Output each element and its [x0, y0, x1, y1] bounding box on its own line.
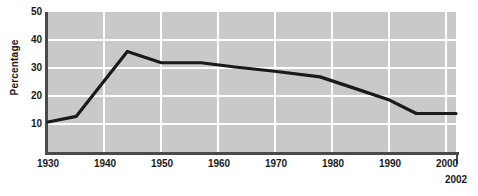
y-tick-label-40: 40 [0, 35, 42, 45]
y-axis-line [45, 12, 48, 155]
gridline-vertical [274, 12, 276, 153]
gridline-horizontal [48, 95, 456, 97]
gridline-vertical [160, 12, 162, 153]
gridline-vertical [331, 12, 333, 153]
x-tick-label-1990: 1990 [367, 158, 413, 169]
plot-area [48, 12, 456, 153]
y-tick-label-30: 30 [0, 63, 42, 73]
x-axis-end-label: 2002 [434, 174, 478, 185]
y-tick-label-10: 10 [0, 119, 42, 129]
gridline-horizontal [48, 67, 456, 69]
x-tick-label-1930: 1930 [25, 158, 71, 169]
gridline-vertical [217, 12, 219, 153]
gridline-horizontal [48, 123, 456, 125]
x-axis-line [45, 152, 459, 155]
x-tick-label-1980: 1980 [310, 158, 356, 169]
y-tick-label-20: 20 [0, 91, 42, 101]
x-tick-label-1950: 1950 [139, 158, 185, 169]
x-tick-label-2000: 2000 [424, 158, 470, 169]
y-tick-label-50: 50 [0, 7, 42, 17]
y-axis-title: Percentage [9, 32, 20, 104]
gridline-vertical [103, 12, 105, 153]
x-tick-label-1960: 1960 [196, 158, 242, 169]
gridline-vertical [388, 12, 390, 153]
x-tick-label-1970: 1970 [253, 158, 299, 169]
gridline-horizontal [48, 39, 456, 41]
gridline-vertical [445, 12, 447, 153]
line-chart: 50 40 30 20 10 1930 1940 1950 1960 1970 … [0, 0, 478, 196]
x-tick-label-1940: 1940 [82, 158, 128, 169]
